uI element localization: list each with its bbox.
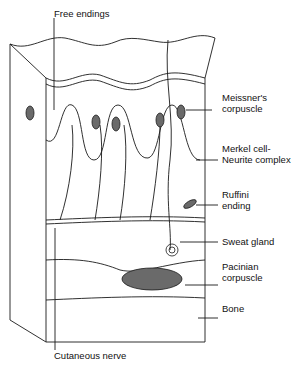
label-meissner-line2: corpuscle <box>222 103 263 114</box>
label-sweat-gland: Sweat gland <box>222 236 274 247</box>
pacinian-corpuscle <box>122 268 182 290</box>
label-pacinian-line1: Pacinian <box>222 261 258 272</box>
ruffini-ending <box>182 198 197 210</box>
sweat-gland <box>166 244 178 256</box>
label-ruffini-line2: ending <box>222 200 251 211</box>
label-merkel-line2: Neurite complex <box>222 154 291 165</box>
label-merkel-line1: Merkel cell- <box>222 143 271 154</box>
skin-surface <box>10 36 215 78</box>
label-meissner-line1: Meissner's <box>222 92 267 103</box>
label-free-endings: Free endings <box>54 8 109 19</box>
label-ruffini-line1: Ruffini <box>222 189 249 200</box>
label-cutaneous-nerve: Cutaneous nerve <box>54 350 126 361</box>
label-pacinian-line2: corpuscle <box>222 272 263 283</box>
skin-diagram <box>0 0 294 368</box>
label-bone: Bone <box>222 303 244 314</box>
